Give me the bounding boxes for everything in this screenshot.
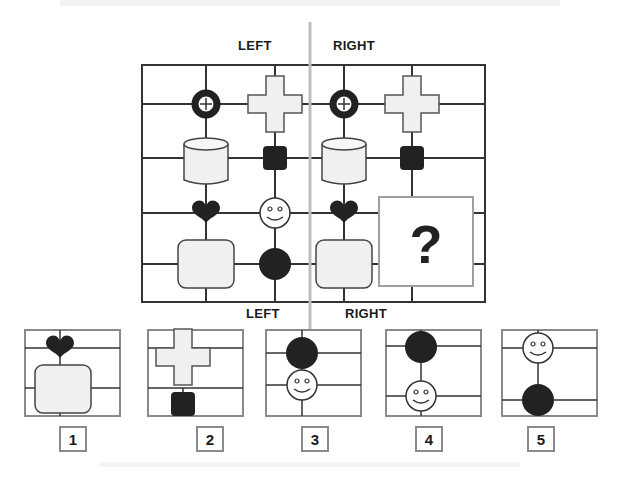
- cylinder-icon: [322, 138, 366, 184]
- cylinder-icon: [184, 138, 228, 184]
- puzzle-graphic: ?: [0, 0, 625, 483]
- smiley-icon: [260, 198, 290, 228]
- option-2-button[interactable]: 2: [196, 426, 224, 452]
- option-2-graphic: [148, 329, 243, 416]
- cross-icon: [248, 76, 302, 132]
- option-3-button[interactable]: 3: [301, 426, 329, 452]
- option-4-graphic: [386, 330, 481, 416]
- black-square-icon: [263, 146, 287, 170]
- option-5-graphic: [502, 330, 597, 416]
- black-circle-icon: [259, 248, 291, 280]
- question-mark: ?: [410, 214, 443, 274]
- target-ring-icon: [333, 93, 355, 115]
- option-3-graphic: [266, 330, 361, 416]
- rounded-square-icon: [316, 240, 372, 288]
- option-1-graphic: [25, 330, 120, 416]
- option-1-button[interactable]: 1: [59, 426, 87, 452]
- black-square-icon: [400, 146, 424, 170]
- option-5-button[interactable]: 5: [527, 426, 555, 452]
- cross-icon: [385, 76, 439, 132]
- option-4-button[interactable]: 4: [415, 426, 443, 452]
- target-ring-icon: [195, 93, 217, 115]
- rounded-square-icon: [178, 240, 234, 288]
